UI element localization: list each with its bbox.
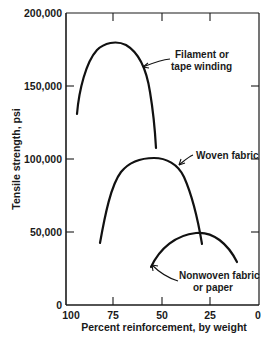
- filament-label-line2: tape winding: [171, 61, 232, 72]
- x-tick-label: 75: [107, 309, 119, 321]
- y-tick-labels: 200,000 150,000 100,000 50,000 0: [24, 7, 62, 311]
- filament-curve: [77, 43, 156, 148]
- nonwoven-arrow: [152, 265, 178, 281]
- x-tick-label: 25: [204, 309, 216, 321]
- x-axis-title: Percent reinforcement, by weight: [81, 321, 247, 333]
- nonwoven-label-line1: Nonwoven fabric: [179, 270, 260, 281]
- filament-arrow: [143, 59, 170, 67]
- x-tick-label: 50: [156, 309, 168, 321]
- woven-fabric-curve: [100, 158, 202, 244]
- tensile-strength-chart: 200,000 150,000 100,000 50,000 0 100 75 …: [0, 0, 272, 343]
- y-tick-label: 50,000: [30, 226, 62, 238]
- x-tick-label: 100: [62, 309, 80, 321]
- y-tick-label: 100,000: [24, 153, 62, 165]
- y-tick-label: 150,000: [24, 80, 62, 92]
- woven-fabric-label: Woven fabric: [196, 150, 259, 161]
- x-tick-labels: 100 75 50 25 0: [62, 309, 261, 321]
- y-tick-label: 200,000: [24, 7, 62, 19]
- y-axis-title: Tensile strength, psi: [10, 108, 22, 209]
- nonwoven-label-line2: or paper: [193, 282, 233, 293]
- filament-label-line1: Filament or: [175, 49, 229, 60]
- x-tick-label: 0: [255, 309, 261, 321]
- nonwoven-curve: [151, 233, 237, 267]
